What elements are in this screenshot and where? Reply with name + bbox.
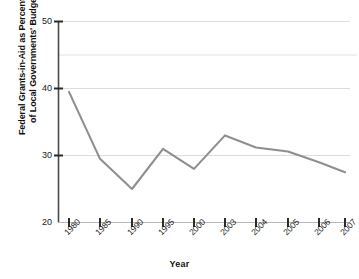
data-series-line — [69, 92, 345, 189]
plot-area — [0, 0, 359, 279]
gridlines — [58, 22, 357, 156]
x-axis-title: Year — [0, 259, 359, 269]
line-chart: Federal Grants-in-Aid as Percentage of L… — [0, 0, 359, 279]
